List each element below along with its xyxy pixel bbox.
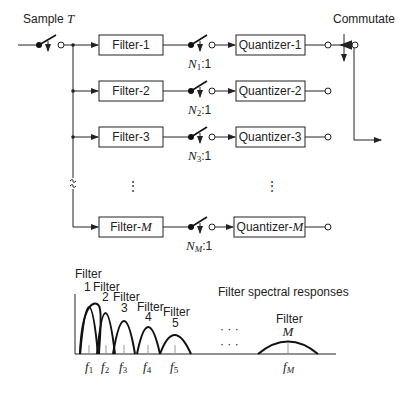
svg-text:· · ·: · · · <box>220 337 239 351</box>
decimation-ratio-3: N3:1 <box>187 148 212 164</box>
svg-text:3: 3 <box>121 301 128 315</box>
sample-label: Sample T <box>23 11 75 26</box>
filter-3-label: Filter-3 <box>112 130 150 144</box>
quantizer-2-label: Quantizer-2 <box>239 84 302 98</box>
svg-text:4: 4 <box>145 310 152 324</box>
svg-text:f2: f2 <box>101 359 109 375</box>
quantizer-1-label: Quantizer-1 <box>239 38 302 52</box>
svg-text:fM: fM <box>283 359 295 375</box>
filter-bank-diagram: Sample T Filter-1 Quantizer-1 N1:1 Filte… <box>0 0 398 394</box>
decimation-ratio-1: N1:1 <box>187 56 212 72</box>
branch-3: Filter-3 Quantizer-3 N3:1 <box>73 127 331 164</box>
quantizer-3-label: Quantizer-3 <box>239 130 302 144</box>
decimation-ratio-m: NM:1 <box>185 238 213 254</box>
branch-m: Filter-M Quantizer-M NM:1 <box>73 217 331 254</box>
svg-text:Filter: Filter <box>75 267 102 281</box>
filter-2-label: Filter-2 <box>112 84 150 98</box>
decimation-ratio-2: N2:1 <box>187 102 212 118</box>
svg-text:2: 2 <box>102 290 109 304</box>
filter-m-label: Filter-M <box>110 219 153 234</box>
svg-text:f5: f5 <box>170 359 179 375</box>
filter-1-label: Filter-1 <box>112 38 150 52</box>
branch-1: Filter-1 Quantizer-1 N1:1 <box>73 35 331 72</box>
break-symbol <box>70 180 76 188</box>
ellipsis-quantizers: ⋮ <box>266 179 278 193</box>
svg-text:5: 5 <box>172 316 179 330</box>
spectrum-title: Filter spectral responses <box>218 285 349 299</box>
commutator-switch <box>331 34 381 140</box>
quantizer-m-label: Quantizer-M <box>237 219 305 234</box>
svg-text:f1: f1 <box>85 359 93 375</box>
ellipsis-filters: ⋮ <box>127 179 139 193</box>
svg-text:1: 1 <box>84 280 91 294</box>
input-sampler-switch <box>18 35 64 51</box>
spectrum-plot: Filter 1 Filter 2 Filter 3 Filter 4 Filt… <box>75 267 349 375</box>
svg-text:f3: f3 <box>119 359 128 375</box>
commutate-label: Commutate <box>333 12 395 26</box>
branch-2: Filter-2 Quantizer-2 N2:1 <box>73 81 331 118</box>
svg-text:M: M <box>282 324 295 339</box>
svg-text:f4: f4 <box>143 359 152 375</box>
svg-text:· · ·: · · · <box>220 322 239 336</box>
